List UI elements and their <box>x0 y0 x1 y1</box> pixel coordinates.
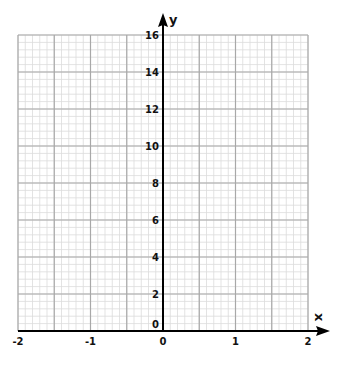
y-tick-label: 8 <box>152 178 159 189</box>
y-tick-label: 12 <box>145 104 159 115</box>
y-axis-label: y <box>169 12 178 27</box>
axes <box>18 13 330 336</box>
y-tick-label: 2 <box>152 289 159 300</box>
y-tick-label: 0 <box>152 319 159 330</box>
x-tick-label: -1 <box>85 336 96 347</box>
y-tick-label: 16 <box>145 30 159 41</box>
tick-labels: yx-2-10120246810121416 <box>12 12 327 347</box>
y-tick-label: 10 <box>145 141 159 152</box>
x-axis-label: x <box>312 313 327 322</box>
x-tick-label: 0 <box>160 336 167 347</box>
x-tick-label: 2 <box>305 336 312 347</box>
y-tick-label: 14 <box>145 67 159 78</box>
y-tick-label: 4 <box>152 252 159 263</box>
x-tick-label: -2 <box>12 336 23 347</box>
x-axis-arrow-icon <box>316 326 330 336</box>
y-axis-arrow-icon <box>158 13 168 27</box>
coordinate-grid-chart: yx-2-10120246810121416 <box>0 0 344 371</box>
x-tick-label: 1 <box>232 336 239 347</box>
y-tick-label: 6 <box>152 215 159 226</box>
